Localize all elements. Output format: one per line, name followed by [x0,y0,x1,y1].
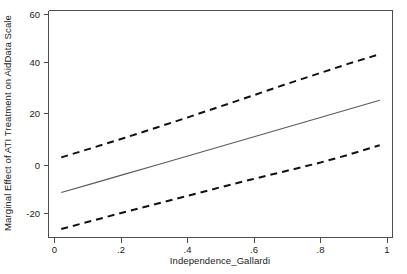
x-tick-label: .6 [250,244,258,255]
x-tick-label: .2 [117,244,125,255]
x-axis-ticks [55,238,388,243]
upper-confidence-bound-line [61,54,380,157]
figure-canvas: Marginal Effect of ATI Treatment on AidD… [0,0,407,274]
data-series-layer [61,54,380,229]
y-axis-tick-labels: 60 40 20 0 -20 [26,9,40,219]
marginal-effect-line [61,100,380,192]
x-axis-tick-labels: 0 .2 .4 .6 .8 1 [52,244,390,255]
x-tick-label: 0 [52,244,57,255]
figure-caption [6,269,306,274]
y-tick-label: 40 [29,57,40,68]
y-axis-ticks [44,15,49,214]
x-axis-title: Independence_Gallardi [48,255,392,266]
plot-frame [49,11,393,238]
y-tick-label: 0 [35,160,40,171]
x-tick-label: .8 [317,244,325,255]
lower-confidence-bound-line [61,145,380,229]
y-tick-label: 20 [29,108,40,119]
x-tick-label: 1 [384,244,389,255]
y-tick-label: -20 [26,208,40,219]
marginal-effect-plot: 60 40 20 0 -20 0 .2 .4 .6 .8 1 [0,0,407,274]
y-tick-label: 60 [29,9,40,20]
x-tick-label: .4 [184,244,192,255]
